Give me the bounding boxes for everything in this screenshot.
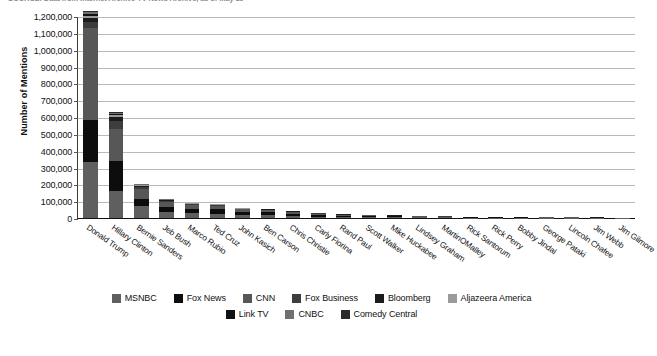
- legend-item[interactable]: Link TV: [226, 309, 269, 319]
- x-label-slot: Rick Perry: [483, 221, 508, 291]
- x-label-slot: Rand Paul: [331, 221, 356, 291]
- bar-slot: [534, 17, 559, 218]
- y-tick-label: 400,000: [41, 147, 72, 157]
- bar-segment: [185, 213, 200, 218]
- stacked-bar[interactable]: [362, 215, 377, 218]
- bar-segment: [235, 215, 250, 218]
- bar-slot: [129, 17, 154, 218]
- stacked-bar[interactable]: [235, 208, 250, 218]
- legend-item[interactable]: Fox News: [174, 293, 226, 303]
- legend-item[interactable]: CNN: [243, 293, 275, 303]
- legend-label: Aljazeera America: [461, 293, 532, 303]
- stacked-bar[interactable]: [261, 209, 276, 218]
- stacked-bar[interactable]: [412, 216, 427, 218]
- stacked-bar[interactable]: [539, 217, 554, 218]
- x-label-slot: Donald Trump: [77, 221, 102, 291]
- bar-slot: [154, 17, 179, 218]
- chart-legend: MSNBCFox NewsCNNFox BusinessBloombergAlj…: [0, 293, 643, 325]
- legend-item[interactable]: Aljazeera America: [448, 293, 532, 303]
- bar-slot: [508, 17, 533, 218]
- bar-slot: [255, 17, 280, 218]
- bar-slot: [281, 17, 306, 218]
- bar-slot: [382, 17, 407, 218]
- bar-slot: [306, 17, 331, 218]
- legend-swatch-icon: [226, 310, 235, 319]
- legend-label: Link TV: [239, 309, 269, 319]
- stacked-bar[interactable]: [286, 211, 301, 218]
- x-label-slot: Lincoln Chafee: [559, 221, 584, 291]
- stacked-bar[interactable]: [463, 217, 478, 218]
- x-label-slot: Bobby Jindal: [508, 221, 533, 291]
- bar-segment: [83, 120, 98, 162]
- x-label-slot: Lindsey Graham: [407, 221, 432, 291]
- bar-slot: [356, 17, 381, 218]
- legend-row-1: MSNBCFox NewsCNNFox BusinessBloombergAlj…: [0, 293, 643, 303]
- stacked-bar[interactable]: [488, 217, 503, 218]
- x-label-slot: Hillary Clinton: [102, 221, 127, 291]
- x-axis-tick-labels: Donald TrumpHillary ClintonBernie Sander…: [77, 221, 635, 291]
- bar-segment: [311, 217, 326, 219]
- bar-slot: [584, 17, 609, 218]
- legend-label: Fox News: [187, 293, 226, 303]
- stacked-bar[interactable]: [311, 213, 326, 218]
- stacked-bar[interactable]: [159, 199, 174, 218]
- x-label-slot: Jim Gilmore: [610, 221, 635, 291]
- stacked-bar[interactable]: [514, 217, 529, 218]
- legend-label: Bloomberg: [388, 293, 431, 303]
- stacked-bar[interactable]: [134, 184, 149, 218]
- stacked-bar[interactable]: [387, 215, 402, 218]
- x-label-slot: Rick Santorum: [457, 221, 482, 291]
- bar-segment: [109, 121, 124, 129]
- legend-item[interactable]: Fox Business: [292, 293, 358, 303]
- legend-swatch-icon: [174, 294, 183, 303]
- x-label-slot: Ted Cruz: [204, 221, 229, 291]
- x-label-slot: Jim Webb: [584, 221, 609, 291]
- stacked-bar[interactable]: [336, 214, 351, 218]
- x-label-slot: Marco Rubio: [178, 221, 203, 291]
- x-label-slot: Scott Walker: [356, 221, 381, 291]
- x-label-slot: Carly Fiorina: [305, 221, 330, 291]
- stacked-bar[interactable]: [564, 217, 579, 218]
- x-label-slot: MartinOMalley: [432, 221, 457, 291]
- stacked-bar[interactable]: [438, 216, 453, 218]
- legend-item[interactable]: Bloomberg: [375, 293, 431, 303]
- stacked-bar[interactable]: [83, 11, 98, 218]
- bar-segment: [83, 162, 98, 218]
- bar-slot: [610, 17, 635, 218]
- y-tick-label: 0: [67, 214, 72, 224]
- y-tick-label: 700,000: [41, 96, 72, 106]
- stacked-bar[interactable]: [185, 203, 200, 218]
- stacked-bar[interactable]: [590, 217, 605, 218]
- bar-segment: [159, 212, 174, 218]
- y-tick-label: 900,000: [41, 63, 72, 73]
- legend-swatch-icon: [341, 310, 350, 319]
- y-tick-label: 1,200,000: [34, 12, 72, 22]
- y-tick-label: 500,000: [41, 130, 72, 140]
- bar-segment: [109, 161, 124, 192]
- legend-item[interactable]: Comedy Central: [341, 309, 418, 319]
- bar-slot: [103, 17, 128, 218]
- y-tick-label: 1,000,000: [34, 46, 72, 56]
- y-tick-label: 200,000: [41, 180, 72, 190]
- bar-slot: [432, 17, 457, 218]
- legend-swatch-icon: [292, 294, 301, 303]
- x-label-slot: Chris Christie: [280, 221, 305, 291]
- legend-label: Fox Business: [305, 293, 358, 303]
- bar-segment: [109, 191, 124, 218]
- stacked-bar[interactable]: [109, 112, 124, 218]
- legend-swatch-icon: [243, 294, 252, 303]
- bar-segment: [336, 217, 351, 218]
- x-label-slot: George Pataki: [533, 221, 558, 291]
- bar-segment: [109, 129, 124, 161]
- bar-slot: [230, 17, 255, 218]
- stacked-bar[interactable]: [210, 204, 225, 218]
- bar-slot: [407, 17, 432, 218]
- y-tick-label: 800,000: [41, 79, 72, 89]
- legend-label: CNBC: [298, 309, 323, 319]
- y-tick-label: 100,000: [41, 197, 72, 207]
- bar-segment: [387, 217, 402, 218]
- legend-item[interactable]: CNBC: [285, 309, 323, 319]
- legend-item[interactable]: MSNBC: [112, 293, 157, 303]
- bar-segment: [134, 206, 149, 218]
